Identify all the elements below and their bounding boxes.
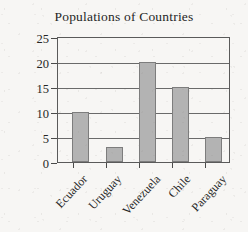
y-tick-label-20: 20 [24,58,49,71]
y-tick-label-10: 10 [24,108,49,121]
y-tick-label-15: 15 [24,83,49,96]
bar-uruguay [106,147,123,162]
x-tick-mark-2 [106,163,107,168]
bar-chart-figure: Populations of Countries Millions of peo… [0,0,248,232]
bar-paraguay [205,137,222,162]
x-tick-mark-1 [73,163,74,168]
x-tick-mark-4 [172,163,173,168]
bar-ecuador [72,112,89,162]
x-tick-mark-5 [205,163,206,168]
y-tick-label-25: 25 [24,33,49,46]
y-tick-label-0: 0 [24,158,49,171]
plot-area [57,37,230,163]
chart-title: Populations of Countries [0,9,248,25]
bar-chile [172,87,189,162]
bar-venezuela [139,62,156,162]
y-tick-label-5: 5 [24,133,49,146]
x-tick-mark-3 [139,163,140,168]
